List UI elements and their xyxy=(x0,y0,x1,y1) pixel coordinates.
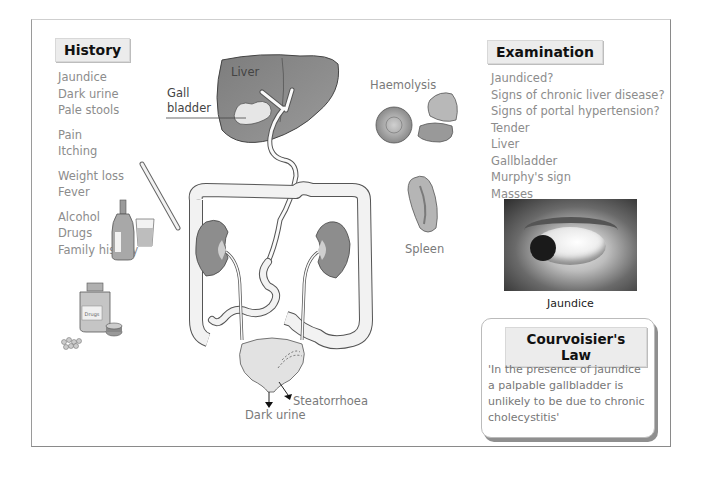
bottle-cap-icon xyxy=(106,323,122,336)
photo-caption: Jaundice xyxy=(504,297,637,310)
bladder-icon xyxy=(240,338,305,392)
liver-label: Liver xyxy=(231,65,259,79)
courvoisier-header: Courvoisier's Law xyxy=(505,327,647,367)
gallbladder-label-line2: bladder xyxy=(167,101,211,115)
spleen-icon xyxy=(408,176,437,232)
red-blood-cell-icon xyxy=(376,107,412,143)
steatorrhoea-label: Steatorrhoea xyxy=(293,394,368,408)
wine-bottle-icon xyxy=(112,200,134,260)
dark-urine-label: Dark urine xyxy=(245,408,306,422)
pills-icon xyxy=(62,338,82,350)
lysed-cell-icon xyxy=(418,93,457,142)
jaundice-eye-photo xyxy=(504,199,637,291)
drug-bottle-icon: Drugs xyxy=(80,283,110,332)
haemolysis-label: Haemolysis xyxy=(370,78,436,92)
courvoisier-text: 'In the presence of jaundice a palpable … xyxy=(488,362,650,426)
glass-icon xyxy=(136,219,154,246)
svg-text:Drugs: Drugs xyxy=(85,311,100,318)
gallbladder-label-line1: Gall xyxy=(167,86,189,100)
spleen-label: Spleen xyxy=(405,242,444,256)
thermometer-icon xyxy=(142,164,178,228)
